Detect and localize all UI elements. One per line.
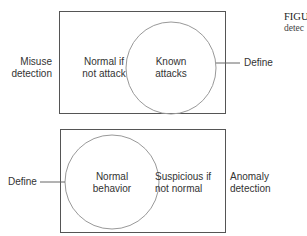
diagram-canvas <box>0 0 307 236</box>
known-attacks-label: Known attacks <box>146 56 196 80</box>
anomaly-define-label: Define <box>8 176 37 188</box>
normal-if-not-attack-label: Normal if not attack <box>78 56 130 80</box>
figure-caption-text: detec <box>284 23 304 34</box>
anomaly-detection-label: Anomaly detection <box>230 171 271 195</box>
suspicious-if-not-normal-label: Suspicious if not normal <box>155 171 211 195</box>
figure-caption-title: FIGU <box>284 11 307 22</box>
misuse-detection-label: Misuse detection <box>6 56 52 80</box>
misuse-define-label: Define <box>244 57 273 69</box>
normal-behavior-label: Normal behavior <box>86 171 138 195</box>
